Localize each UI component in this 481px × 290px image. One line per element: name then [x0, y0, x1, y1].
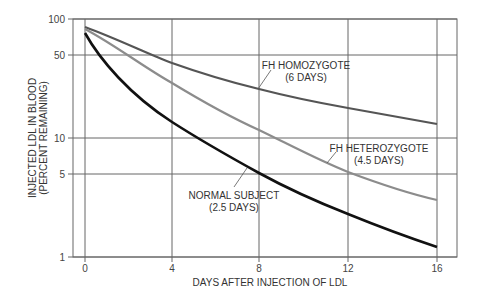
x-tick-12: 12: [342, 263, 354, 274]
annotation-homozygote-line2: (6 DAYS): [285, 72, 327, 83]
x-axis-ticks: 0 4 8 12 16: [82, 263, 443, 274]
annotation-normal-line1: NORMAL SUBJECT: [189, 190, 280, 201]
annotation-normal-line2: (2.5 DAYS): [209, 202, 259, 213]
y-axis-title-line1: INJECTED LDL IN BLOOD: [27, 78, 38, 198]
x-tick-16: 16: [431, 263, 443, 274]
y-axis-ticks: 100 50 10 5 1: [48, 14, 65, 263]
annotation-fh-homozygote: FH HOMOZYGOTE (6 DAYS): [258, 60, 350, 89]
annotation-normal-subject: NORMAL SUBJECT (2.5 DAYS): [189, 168, 280, 213]
y-tick-50: 50: [54, 50, 66, 61]
y-tick-5: 5: [59, 169, 65, 180]
y-tick-1: 1: [59, 252, 65, 263]
y-tick-100: 100: [48, 14, 65, 25]
x-tick-0: 0: [82, 263, 88, 274]
chart: 100 50 10 5 1 0 4 8 12 16 DAYS AFTER INJ…: [0, 0, 481, 290]
annotation-heterozygote-line2: (4.5 DAYS): [354, 155, 404, 166]
annotation-fh-heterozygote: FH HETEROZYGOTE (4.5 DAYS): [327, 143, 429, 166]
annotation-homozygote-line1: FH HOMOZYGOTE: [262, 60, 351, 71]
y-axis-title-line2: (PERCENT REMAINING): [38, 81, 49, 195]
x-tick-8: 8: [256, 263, 262, 274]
series-fh-homozygote: [85, 27, 437, 124]
y-axis-title: INJECTED LDL IN BLOOD (PERCENT REMAINING…: [27, 78, 49, 198]
annotation-heterozygote-line1: FH HETEROZYGOTE: [330, 143, 429, 154]
y-tick-10: 10: [54, 133, 66, 144]
x-tick-4: 4: [169, 263, 175, 274]
x-axis-title: DAYS AFTER INJECTION OF LDL: [193, 277, 348, 288]
